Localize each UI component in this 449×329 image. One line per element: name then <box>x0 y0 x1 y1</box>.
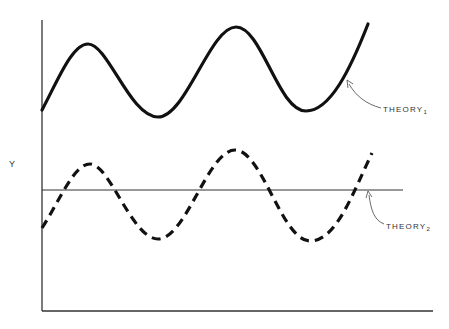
theory2-curve <box>42 150 372 241</box>
theory2-arrow <box>369 195 384 224</box>
theory2-label-main: THEORY <box>386 222 426 231</box>
diagram-canvas: Y THEORY1 THEORY2 <box>0 0 449 329</box>
theory1-label-sub: 1 <box>423 109 428 115</box>
theory2-label: THEORY2 <box>386 222 431 232</box>
theory1-arrowhead <box>347 80 353 88</box>
theory1-arrow <box>349 84 381 108</box>
theory1-curve <box>42 24 368 117</box>
theory1-label: THEORY1 <box>383 105 428 115</box>
theory2-label-sub: 2 <box>426 226 431 232</box>
theory1-label-main: THEORY <box>383 105 423 114</box>
y-axis-label: Y <box>9 159 15 169</box>
